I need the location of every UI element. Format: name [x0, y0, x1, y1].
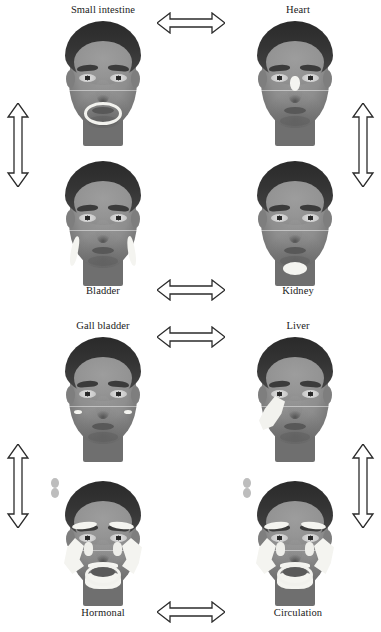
eye-left — [79, 74, 96, 82]
highlight-zone-temple-right — [51, 488, 59, 498]
nose-shape — [96, 540, 111, 563]
face-image-small-intestine — [51, 18, 155, 146]
face-image-liver — [243, 334, 347, 462]
panel-label-hormonal: Hormonal — [33, 607, 173, 619]
mouth-shape — [284, 423, 306, 430]
highlight-zone-temple-left — [243, 478, 251, 488]
eye-left — [79, 534, 96, 542]
mouth-shape — [283, 567, 307, 577]
panel-label-bladder: Bladder — [33, 285, 173, 297]
eye-left — [271, 390, 288, 398]
panel-label-gall-bladder: Gall bladder — [33, 320, 173, 332]
highlight-zone-nose-side-left — [84, 542, 93, 556]
highlight-zone-cheek-dot-right — [124, 410, 132, 414]
mouth-shape — [92, 247, 114, 254]
eye-right — [110, 390, 127, 398]
mouth-shape — [91, 567, 115, 577]
eye-left — [271, 214, 288, 222]
panel-label-circulation: Circulation — [228, 607, 368, 619]
face-panel-liver — [243, 334, 347, 462]
panel-label-liver: Liver — [228, 320, 368, 332]
ear-left — [258, 386, 267, 404]
connector-gall-bladder-liver — [157, 326, 225, 348]
face-panel-hormonal — [51, 478, 155, 606]
face-panel-heart — [243, 18, 347, 146]
face-panel-bladder — [51, 158, 155, 286]
eye-right — [110, 214, 127, 222]
connector-bladder-kidney — [157, 279, 225, 301]
eye-right — [110, 534, 127, 542]
face-image-gall-bladder — [51, 334, 155, 462]
ear-right — [131, 70, 140, 88]
mouth-shape — [284, 247, 306, 254]
chin-shadow — [88, 432, 118, 442]
chin-shadow — [280, 432, 310, 442]
ear-right — [131, 210, 140, 228]
eye-left — [79, 214, 96, 222]
highlight-zone-nose-side-left — [276, 542, 285, 556]
nose-shape — [288, 220, 303, 243]
ear-left — [66, 386, 75, 404]
eye-right — [110, 74, 127, 82]
face-image-bladder — [51, 158, 155, 286]
chin-shadow — [88, 256, 118, 266]
face-panel-gall-bladder — [51, 334, 155, 462]
nose-shape — [96, 396, 111, 419]
highlight-zone-temple-right — [243, 488, 251, 498]
mouth-shape — [284, 107, 306, 114]
connector-heart-kidney — [351, 103, 375, 187]
connector-small-intestine-bladder — [6, 103, 30, 187]
chin-shadow — [280, 116, 310, 126]
panel-label-small-intestine: Small intestine — [33, 4, 173, 16]
eye-left — [271, 534, 288, 542]
connector-gall-bladder-hormonal — [6, 444, 30, 528]
nose-shape — [96, 220, 111, 243]
ear-right — [323, 210, 332, 228]
ear-left — [258, 210, 267, 228]
nose-shape — [96, 80, 111, 103]
ear-right — [131, 386, 140, 404]
photo-seam-line — [57, 406, 149, 407]
highlight-zone-nose-side-right — [113, 542, 122, 556]
face-image-heart — [243, 18, 347, 146]
nose-shape — [288, 540, 303, 563]
nose-shape — [288, 396, 303, 419]
face-image-hormonal — [51, 478, 155, 606]
face-panel-small-intestine — [51, 18, 155, 146]
figure-canvas: Small intestine Heart — [0, 0, 381, 632]
connector-small-intestine-heart — [157, 12, 225, 34]
ear-left — [258, 70, 267, 88]
face-image-circulation — [243, 478, 347, 606]
ear-right — [323, 70, 332, 88]
eye-right — [302, 534, 319, 542]
eye-right — [302, 214, 319, 222]
ear-left — [66, 210, 75, 228]
photo-seam-line — [249, 230, 341, 231]
eye-right — [302, 390, 319, 398]
highlight-zone-mouth-ring — [84, 102, 122, 125]
highlight-zone-neck-oval — [283, 262, 307, 275]
eye-left — [79, 390, 96, 398]
face-panel-kidney — [243, 158, 347, 286]
photo-seam-line — [57, 90, 149, 91]
ear-right — [323, 386, 332, 404]
connector-liver-circulation — [351, 444, 375, 528]
highlight-zone-nose-side-right — [305, 542, 314, 556]
photo-seam-line — [249, 406, 341, 407]
photo-seam-line — [57, 230, 149, 231]
highlight-zone-nose-bridge — [290, 76, 300, 91]
highlight-zone-cheek-dot-left — [74, 410, 82, 414]
mouth-shape — [92, 423, 114, 430]
ear-left — [66, 70, 75, 88]
eye-left — [271, 74, 288, 82]
panel-label-kidney: Kidney — [228, 285, 368, 297]
highlight-zone-cheek-crescent-right — [125, 236, 137, 267]
face-image-kidney — [243, 158, 347, 286]
highlight-zone-temple-left — [51, 478, 59, 488]
connector-hormonal-circulation — [157, 601, 225, 623]
eye-right — [302, 74, 319, 82]
panel-label-heart: Heart — [228, 4, 368, 16]
face-panel-circulation — [243, 478, 347, 606]
